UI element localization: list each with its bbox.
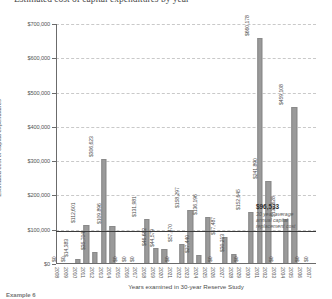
x-axis-label: 2016	[124, 267, 130, 278]
bar-value-label: $112,601	[70, 203, 76, 223]
bar-cell: $14,3832010	[73, 24, 82, 264]
y-axis-title: Estimated cost of capital expenditures	[0, 58, 2, 238]
bar-cell: $02009	[65, 24, 74, 264]
bar-cell: $02016	[125, 24, 134, 264]
x-axis-label: 2021	[167, 267, 173, 278]
annotation-description: 30 year average annual capital replaceme…	[256, 211, 328, 230]
bar-value-label: $0	[121, 256, 127, 262]
bar[interactable]	[153, 248, 158, 264]
bar-value-label: $35,704	[80, 232, 86, 250]
bar[interactable]	[101, 159, 106, 264]
x-axis-label: 2019	[150, 267, 156, 278]
x-axis-label: 2032	[262, 267, 268, 278]
x-axis-label: 2013	[98, 267, 104, 278]
bar-cell: $109,8962014	[108, 24, 117, 264]
bar-value-label: $136,196	[191, 194, 197, 215]
x-axis-label: 2023	[184, 267, 190, 278]
bar[interactable]	[292, 107, 297, 264]
average-reference-line	[56, 231, 316, 232]
x-axis-label: 2024	[193, 267, 199, 278]
x-axis-label: 2034	[280, 267, 286, 278]
y-axis-label: $300,000	[27, 158, 50, 164]
bar-value-label: $0	[208, 256, 214, 262]
bar-value-label: $241,890	[252, 158, 258, 179]
x-axis-label: 2011	[80, 267, 86, 278]
x-axis-label: 2026	[210, 267, 216, 278]
x-axis-label: 2022	[176, 267, 182, 278]
bar-cell: $30,2132028	[229, 24, 238, 264]
bar-value-label: $27,440	[184, 235, 190, 253]
bar-value-label: $0	[112, 256, 118, 262]
bar-value-label: $109,896	[96, 203, 102, 224]
bar-value-label: $306,623	[87, 136, 93, 157]
bar-cell: $02015	[117, 24, 126, 264]
bar-value-label: $0	[234, 256, 240, 262]
bar-cell: $57,4702022	[177, 24, 186, 264]
x-axis-label: 2015	[115, 267, 121, 278]
bar-value-label: $57,470	[167, 224, 173, 242]
y-axis-line	[56, 24, 57, 264]
x-axis-label: 2009	[63, 267, 69, 278]
bar-value-label: $0	[294, 256, 300, 262]
annotation-value: $96,533	[256, 203, 328, 211]
x-axis-label: 2008	[54, 267, 60, 278]
x-axis-label: 2010	[72, 267, 78, 278]
x-axis-label: 2031	[254, 267, 260, 278]
x-axis-title: Years examined in 30-year Reserve Study	[56, 283, 316, 290]
annotation-line-3: replacement cost	[256, 223, 328, 229]
bar-value-label: $0	[268, 256, 274, 262]
bar-cell: $02029	[238, 24, 247, 264]
y-axis-label: $600,000	[27, 55, 50, 61]
x-axis-label: 2029	[236, 267, 242, 278]
x-axis-label: 2017	[132, 267, 138, 278]
x-axis-label: 2018	[141, 267, 147, 278]
y-axis-label: $500,000	[27, 90, 50, 96]
bar-cell: $02008	[56, 24, 65, 264]
x-axis-label: 2028	[228, 267, 234, 278]
y-axis-label: $700,000	[27, 21, 50, 27]
bar-value-label: $0	[164, 256, 170, 262]
y-axis-tick	[52, 264, 56, 265]
x-axis-line	[56, 263, 316, 264]
y-axis-label: $400,000	[27, 124, 50, 130]
x-axis-label: 2036	[297, 267, 303, 278]
average-annotation: $96,533 30 year average annual capital r…	[256, 203, 328, 230]
x-axis-label: 2030	[245, 267, 251, 278]
y-axis-label: $200,000	[27, 192, 50, 198]
x-axis-label: 2012	[89, 267, 95, 278]
chart-page: Estimated cost of capital expenditures b…	[0, 0, 332, 299]
bar-value-label: $0	[130, 256, 136, 262]
bar-cell: $158,2972023	[186, 24, 195, 264]
bar[interactable]	[248, 212, 253, 264]
bar-cell: $27,4402024	[195, 24, 204, 264]
bar-cell: $306,6232013	[99, 24, 108, 264]
bar-value-label: $131,981	[131, 196, 137, 217]
bar-value-label: $459,108	[278, 84, 284, 105]
y-axis-label: $100,000	[27, 227, 50, 233]
x-axis-label: 2014	[106, 267, 112, 278]
bar-value-label: $158,297	[174, 187, 180, 208]
figure-caption: Example 6	[6, 292, 36, 298]
x-axis-label: 2025	[202, 267, 208, 278]
bar-cell: $152,6452030	[247, 24, 256, 264]
bar-value-label: $30,213	[219, 234, 225, 252]
x-axis-label: 2035	[288, 267, 294, 278]
bar-value-label: $77,487	[210, 217, 216, 235]
bar-value-label: $0	[60, 256, 66, 262]
bar-value-label: $152,645	[235, 189, 241, 210]
chart-title: Estimated cost of capital expenditures b…	[14, 0, 314, 8]
bar-value-label: $0	[303, 256, 309, 262]
x-axis-label: 2027	[219, 267, 225, 278]
x-axis-label: 2033	[271, 267, 277, 278]
bar-value-label: $660,178	[243, 15, 249, 36]
x-axis-label: 2037	[306, 267, 312, 278]
y-axis-label: $0	[44, 261, 50, 267]
bar-value-label: $14,383	[63, 239, 69, 257]
x-axis-label: 2020	[158, 267, 164, 278]
bar-cell: $77,4872027	[221, 24, 230, 264]
